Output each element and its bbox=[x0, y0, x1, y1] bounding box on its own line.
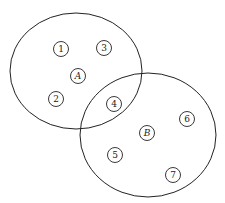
element-1: 1 bbox=[54, 42, 69, 57]
element-label: 2 bbox=[53, 94, 59, 104]
element-label: 7 bbox=[170, 170, 176, 180]
element-3: 3 bbox=[97, 41, 112, 56]
element-2: 2 bbox=[49, 92, 64, 107]
element-label: 1 bbox=[58, 44, 64, 54]
element-4: 4 bbox=[107, 97, 122, 112]
element-label: 5 bbox=[112, 150, 118, 160]
element-label: 3 bbox=[101, 43, 107, 53]
element-6: 6 bbox=[180, 112, 195, 127]
element-label: 6 bbox=[184, 114, 190, 124]
element-b: B bbox=[140, 126, 155, 141]
element-7: 7 bbox=[166, 168, 181, 183]
venn-diagram: 13A24B657 bbox=[0, 0, 225, 203]
element-a: A bbox=[71, 69, 86, 84]
venn-canvas: 13A24B657 bbox=[0, 0, 225, 203]
element-5: 5 bbox=[108, 148, 123, 163]
element-label: A bbox=[74, 71, 82, 81]
element-label: B bbox=[143, 128, 151, 138]
element-label: 4 bbox=[111, 99, 117, 109]
